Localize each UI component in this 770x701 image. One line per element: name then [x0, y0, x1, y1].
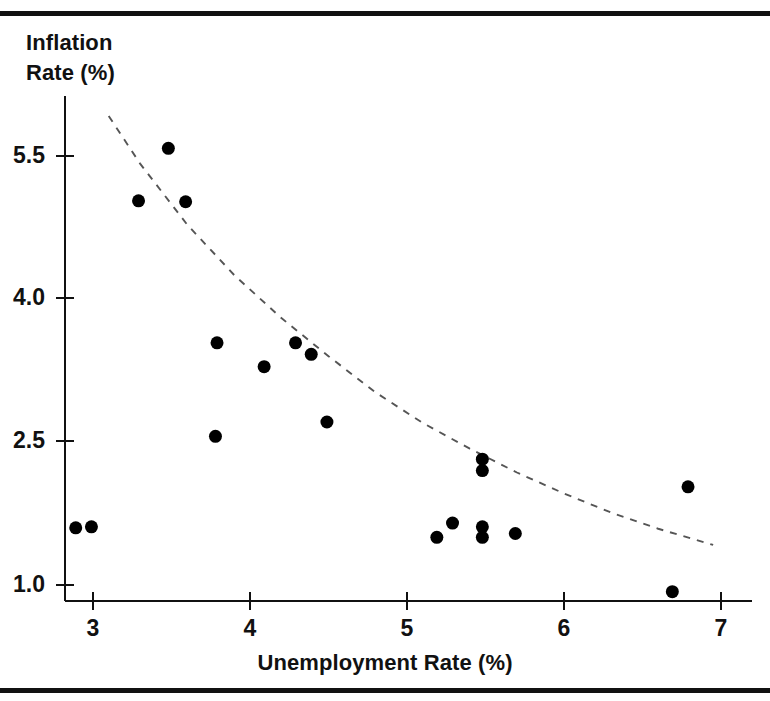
- fitted-curve: [109, 116, 713, 545]
- data-point-marker: [211, 336, 224, 349]
- data-point-marker: [132, 194, 145, 207]
- data-point-marker: [682, 480, 695, 493]
- y-tick-label: 1.0: [0, 571, 45, 598]
- data-point-marker: [476, 464, 489, 477]
- data-point-marker: [289, 336, 302, 349]
- axis-group: [56, 96, 752, 610]
- x-tick-label: 3: [73, 615, 113, 642]
- y-tick-label: 4.0: [0, 284, 45, 311]
- y-tick-label: 2.5: [0, 427, 45, 454]
- fitted-curve-group: [109, 116, 713, 545]
- data-point-marker: [320, 415, 333, 428]
- y-tick-label: 5.5: [0, 142, 45, 169]
- data-point-marker: [69, 521, 82, 534]
- data-point-marker: [476, 531, 489, 544]
- data-point-marker: [509, 527, 522, 540]
- x-tick-label: 7: [701, 615, 741, 642]
- data-point-marker: [666, 585, 679, 598]
- scatter-plot-canvas: [0, 0, 770, 701]
- data-point-marker: [305, 348, 318, 361]
- chart-figure: InflationRate (%) Unemployment Rate (%) …: [0, 0, 770, 701]
- data-point-marker: [85, 520, 98, 533]
- data-point-marker: [162, 142, 175, 155]
- data-points-group: [69, 142, 694, 598]
- x-tick-label: 4: [230, 615, 270, 642]
- data-point-marker: [258, 360, 271, 373]
- y-axis-title-line2: Rate (%): [26, 60, 115, 85]
- x-tick-label: 5: [387, 615, 427, 642]
- data-point-marker: [209, 430, 222, 443]
- data-point-marker: [476, 453, 489, 466]
- x-tick-label: 6: [544, 615, 584, 642]
- y-axis-title-line1: Inflation: [26, 30, 112, 55]
- data-point-marker: [430, 531, 443, 544]
- x-axis-title: Unemployment Rate (%): [0, 650, 770, 676]
- data-point-marker: [446, 517, 459, 530]
- data-point-marker: [179, 195, 192, 208]
- y-axis-title: InflationRate (%): [26, 28, 115, 88]
